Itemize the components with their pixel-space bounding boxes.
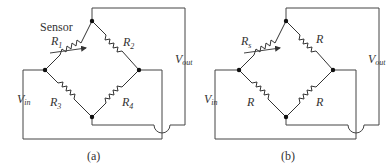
node-left	[237, 68, 241, 72]
r2-label: R2	[122, 35, 134, 51]
vin-wire	[23, 70, 162, 139]
vin-wire	[215, 70, 356, 139]
wheatstone-bridge-figure: Sensor R1 R2 R3 R4 Vin Vout (a) Rs R R R…	[0, 0, 388, 165]
caption-a: (a)	[87, 149, 100, 163]
r1-label: R1	[50, 34, 62, 50]
r-bottom-right-label: R	[315, 95, 324, 109]
r3-label: R3	[49, 95, 61, 111]
vout-label: Vout	[368, 52, 386, 67]
node-right	[137, 68, 141, 72]
node-right	[331, 68, 335, 72]
resistor-r-bottom-right	[286, 70, 333, 117]
sensor-label: Sensor	[40, 20, 73, 34]
node-top	[90, 19, 94, 23]
vin-label: Vin	[204, 92, 218, 107]
node-bottom	[284, 115, 288, 119]
variable-arrow-icon	[50, 48, 86, 53]
vin-label: Vin	[17, 92, 31, 107]
rs-label: Rs	[240, 34, 251, 50]
panel-a: Sensor R1 R2 R3 R4 Vin Vout (a)	[17, 8, 193, 163]
caption-b: (b)	[281, 149, 295, 163]
resistor-r3	[45, 70, 92, 117]
node-top	[284, 19, 288, 23]
r-top-right-label: R	[315, 32, 324, 46]
panel-b: Rs R R R Vin Vout (b)	[204, 8, 386, 163]
node-left	[43, 68, 47, 72]
node-bottom	[90, 115, 94, 119]
r-bottom-left-label: R	[246, 95, 255, 109]
vout-label: Vout	[175, 52, 193, 67]
resistor-r-bottom-left	[239, 70, 286, 117]
r4-label: R4	[121, 95, 133, 111]
resistor-r-top-right	[286, 21, 333, 70]
